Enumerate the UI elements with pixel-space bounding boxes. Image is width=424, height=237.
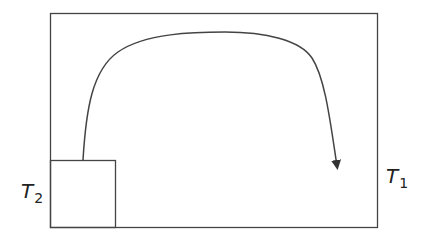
label-t1: T1 xyxy=(386,166,408,190)
label-t2-main: T xyxy=(21,179,33,203)
label-t1-main: T xyxy=(386,164,398,188)
label-t2: T2 xyxy=(21,181,43,205)
flow-arrow-curve xyxy=(83,32,337,166)
label-t1-subscript: 1 xyxy=(399,175,408,191)
diagram-canvas xyxy=(0,0,424,237)
outer-region-box xyxy=(51,14,378,228)
inner-region-box xyxy=(51,161,116,228)
label-t2-subscript: 2 xyxy=(34,190,43,206)
